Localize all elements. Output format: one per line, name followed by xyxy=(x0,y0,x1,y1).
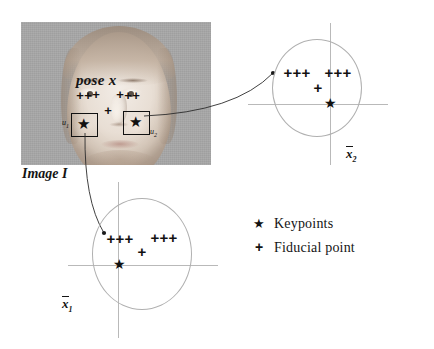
legend-item-fiducial: + Fiducial point xyxy=(253,239,355,262)
legend-item-keypoints: ★ Keypoints xyxy=(253,216,355,239)
figure-root: pose x +++++++★u1★u2 Image I +++++++★x2+… xyxy=(0,0,434,349)
panel-xbar1-fiducial-point: + xyxy=(169,230,178,245)
panel-xbar1-fiducial-point: + xyxy=(151,230,160,245)
legend: ★ Keypoints + Fiducial point xyxy=(253,216,355,262)
panel-xbar1-fiducial-point: + xyxy=(138,244,147,259)
legend-label-keypoints: Keypoints xyxy=(274,216,333,232)
panel-xbar1-keypoint-star: ★ xyxy=(113,258,126,272)
panel-xbar1-fiducial-point: + xyxy=(125,231,134,246)
star-icon: ★ xyxy=(253,216,265,231)
plus-icon: + xyxy=(253,239,265,255)
panel-xbar1: +++++++★x1 xyxy=(0,0,434,349)
panel-xbar1-fiducial-point: + xyxy=(160,230,169,245)
panel-xbar1-fiducial-point: + xyxy=(107,231,116,246)
legend-label-fiducial: Fiducial point xyxy=(274,240,355,256)
panel-xbar1-axis-label: x1 xyxy=(62,296,73,314)
panel-xbar1-fiducial-point: + xyxy=(116,231,125,246)
